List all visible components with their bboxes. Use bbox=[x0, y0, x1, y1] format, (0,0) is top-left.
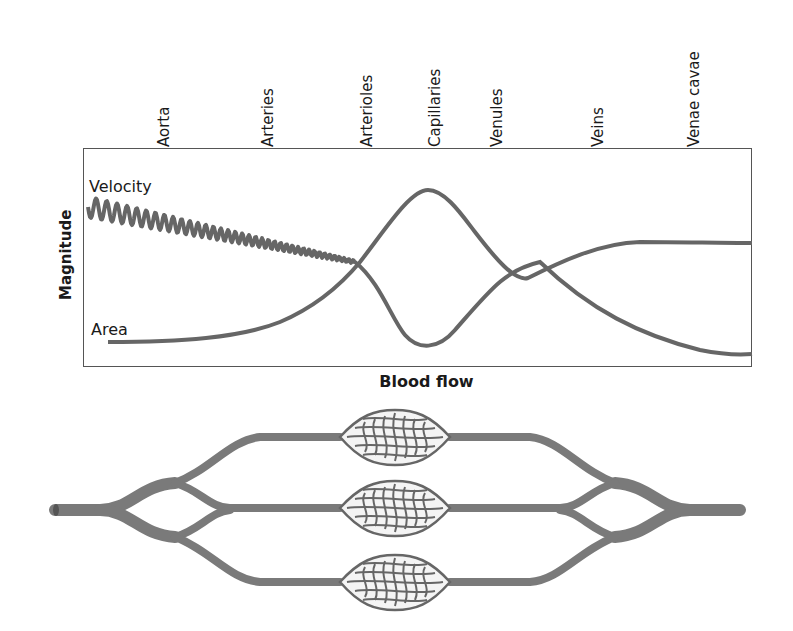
aorta-vessel bbox=[55, 483, 175, 510]
vessel-diagram bbox=[0, 0, 793, 631]
